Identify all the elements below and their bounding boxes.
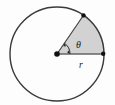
- radius-label: r: [79, 60, 83, 70]
- figure-canvas: θ r: [0, 0, 115, 105]
- arc-start-point: [101, 52, 105, 56]
- center-point: [54, 51, 60, 57]
- circle-sector-figure: θ r: [0, 0, 115, 105]
- angle-label: θ: [76, 39, 81, 50]
- arc-end-point: [81, 13, 85, 17]
